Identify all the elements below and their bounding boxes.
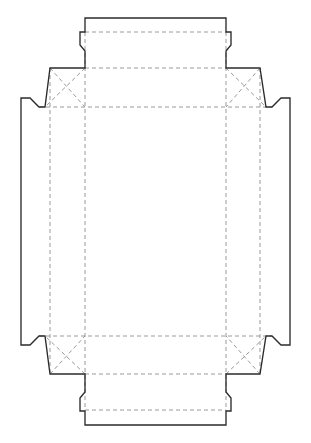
- canvas-background: [0, 0, 311, 443]
- dieline-diagram: [0, 0, 311, 443]
